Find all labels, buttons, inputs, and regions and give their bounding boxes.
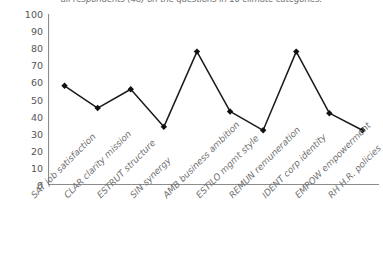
data-point-marker — [359, 127, 365, 133]
plot-area — [48, 14, 379, 185]
y-tick-label: 20 — [0, 145, 44, 156]
chart-figure: all respondents (48) on the questions in… — [0, 0, 383, 278]
data-point-marker — [227, 108, 233, 114]
chart-title: all respondents (48) on the questions in… — [0, 0, 383, 4]
y-tick-label: 70 — [0, 60, 44, 71]
y-tick-label: 10 — [0, 162, 44, 173]
y-tick-label: 30 — [0, 128, 44, 139]
data-point-marker — [260, 127, 266, 133]
y-tick-label: 90 — [0, 26, 44, 37]
y-tick-label: 50 — [0, 94, 44, 105]
data-line — [65, 52, 363, 131]
y-tick-label: 40 — [0, 111, 44, 122]
data-point-marker — [194, 48, 200, 54]
y-tick-label: 0 — [0, 180, 44, 191]
data-point-marker — [293, 48, 299, 54]
data-point-marker — [326, 110, 332, 116]
line-series-svg — [48, 14, 379, 185]
y-tick-label: 60 — [0, 77, 44, 88]
y-tick-label: 100 — [0, 9, 44, 20]
y-tick-label: 80 — [0, 43, 44, 54]
y-axis: 1009080706050403020100 — [0, 0, 44, 199]
